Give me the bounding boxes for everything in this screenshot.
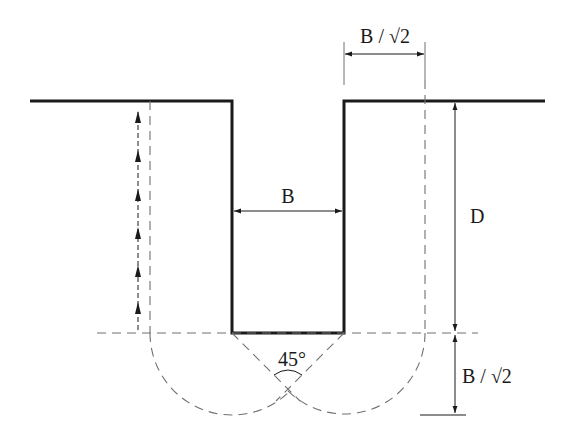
bottom-depth-label: B / √2 [462, 365, 512, 387]
angle-label: 45° [278, 348, 306, 370]
trench-width-label: B [281, 185, 294, 207]
top-width-dimension [344, 42, 425, 85]
angle-arc [274, 370, 302, 375]
left-arc [150, 333, 290, 415]
depth-label: D [470, 205, 484, 227]
right-arc [287, 333, 425, 414]
top-width-label: B / √2 [360, 25, 410, 47]
trench-diagram: B / √2 B D B / √2 45° [0, 0, 567, 439]
bottom-depth-dimension [420, 335, 466, 415]
trench-outline [30, 101, 545, 333]
